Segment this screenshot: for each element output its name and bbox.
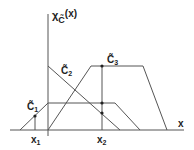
x-axis-label: x [178,118,184,129]
x2-label: x2 [97,134,107,146]
set-c3-label: C̃3 [107,53,118,66]
set-c2-label: C̃2 [61,64,72,77]
fuzzy-diagram: χC̃(x) x C̃1 C̃2 C̃3 x1 x2 [0,0,194,150]
y-axis-label: χC̃(x) [52,8,77,25]
x2-point-c2 [100,111,103,114]
x1-point [33,114,36,117]
set-c1-label: C̃1 [27,100,38,113]
x2-point-c1 [100,101,103,104]
x2-point-c3 [100,64,103,67]
x1-label: x1 [31,134,41,146]
